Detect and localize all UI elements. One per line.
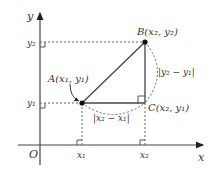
right-angle-y1 bbox=[40, 103, 45, 108]
coordinate-diagram: y x O y₂ y₁ x₁ x₂ A(x₁, y₁) B(x₂, y₂) C(… bbox=[0, 0, 215, 174]
point-A-label: A(x₁, y₁) bbox=[47, 73, 89, 84]
point-B-label: B(x₂, y₂) bbox=[136, 26, 178, 37]
origin-label: O bbox=[29, 148, 38, 161]
brace-vertical bbox=[145, 42, 158, 103]
x-axis-label: x bbox=[198, 151, 205, 164]
vertical-distance-label: |y₂ − y₁| bbox=[158, 67, 195, 78]
right-angle-x2 bbox=[140, 140, 145, 145]
right-angle-C bbox=[138, 96, 145, 103]
right-angle-x1 bbox=[77, 140, 82, 145]
tick-y1-label: y₁ bbox=[26, 98, 36, 108]
tick-x2-label: x₂ bbox=[140, 150, 149, 160]
tick-y2-label: y₂ bbox=[26, 38, 36, 48]
y-axis-label: y bbox=[26, 10, 34, 23]
point-A bbox=[79, 100, 84, 105]
pointer-arrow-A bbox=[70, 84, 79, 101]
tick-x1-label: x₁ bbox=[77, 150, 86, 160]
right-angle-y2 bbox=[40, 42, 45, 47]
point-B bbox=[142, 39, 147, 44]
segment-AB bbox=[82, 42, 145, 103]
horizontal-distance-label: |x₂ − x₁| bbox=[93, 113, 130, 124]
diagram-svg: y x O y₂ y₁ x₁ x₂ A(x₁, y₁) B(x₂, y₂) C(… bbox=[0, 0, 215, 174]
point-C-label: C(x₂, y₁) bbox=[148, 102, 189, 113]
